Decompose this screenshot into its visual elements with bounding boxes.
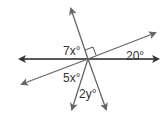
angle-label-5x: 5x°	[63, 72, 80, 84]
angle-label-2y: 2y°	[79, 88, 96, 100]
angle-label-20: 20°	[126, 50, 144, 62]
angle-diagram: 7x° 20° 5x° 2y°	[0, 0, 166, 114]
angle-label-7x: 7x°	[63, 45, 80, 57]
